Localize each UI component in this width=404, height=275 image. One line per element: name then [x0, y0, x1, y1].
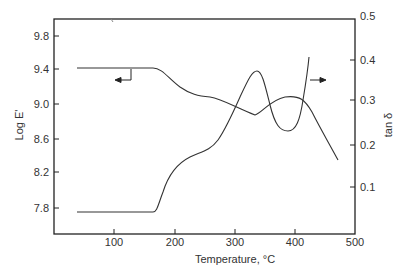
- svg-text:200: 200: [166, 236, 184, 248]
- svg-text:0.4: 0.4: [360, 54, 375, 66]
- svg-text:8.2: 8.2: [34, 166, 49, 178]
- left-axis-arrow-icon: [115, 69, 131, 83]
- left-tick-labels: 9.8 9.4 9.0 8.6 8.2 7.8: [34, 30, 49, 214]
- svg-text:0.5: 0.5: [360, 10, 375, 22]
- svg-text:100: 100: [105, 236, 123, 248]
- plot-frame: [54, 19, 355, 234]
- tan-delta-curve: [77, 57, 309, 212]
- svg-text:7.8: 7.8: [34, 202, 49, 214]
- x-axis-title: Temperature, °C: [195, 253, 275, 265]
- right-tick-labels: 0.5 0.4 0.3 0.2 0.1: [360, 10, 375, 193]
- dma-chart: 9.8 9.4 9.0 8.6 8.2 7.8 0.5 0.4 0.3 0.2 …: [0, 0, 404, 275]
- svg-text:400: 400: [286, 236, 304, 248]
- svg-text:9.0: 9.0: [34, 98, 49, 110]
- svg-text:9.8: 9.8: [34, 30, 49, 42]
- left-axis-title: Log E': [13, 110, 25, 141]
- svg-text:8.6: 8.6: [34, 133, 49, 145]
- svg-text:9.4: 9.4: [34, 63, 49, 75]
- log-e-curve: [77, 68, 338, 160]
- svg-text:0.3: 0.3: [360, 94, 375, 106]
- svg-text:0.2: 0.2: [360, 139, 375, 151]
- x-axis: [114, 229, 295, 234]
- left-axis: [54, 36, 59, 208]
- right-axis-title: tan δ: [382, 113, 394, 137]
- right-axis: [350, 60, 355, 187]
- right-axis-arrow-icon: [310, 78, 326, 83]
- svg-text:500: 500: [346, 236, 364, 248]
- x-tick-labels: 100 200 300 400 500: [105, 236, 364, 248]
- svg-text:300: 300: [226, 236, 244, 248]
- svg-text:0.1: 0.1: [360, 181, 375, 193]
